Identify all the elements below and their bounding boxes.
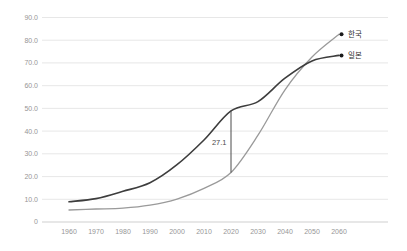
series-label-japan: 일본	[348, 51, 362, 60]
y-tick-label: 90.0	[24, 14, 38, 21]
series-end-dot-japan	[340, 53, 344, 57]
y-tick-label: 80.0	[24, 37, 38, 44]
series-line-japan	[69, 55, 339, 201]
x-tick-label: 1960	[61, 228, 77, 235]
x-tick-label: 1970	[88, 228, 104, 235]
x-tick-label: 2050	[304, 228, 320, 235]
y-tick-label: 60.0	[24, 82, 38, 89]
chart-canvas: 010.020.030.040.050.060.070.080.090.0196…	[0, 0, 407, 251]
y-tick-label: 70.0	[24, 59, 38, 66]
x-tick-label: 1980	[115, 228, 131, 235]
gap-annotation-label: 27.1	[212, 138, 227, 147]
series-label-korea: 한국	[348, 30, 362, 39]
x-tick-label: 2040	[277, 228, 293, 235]
y-tick-label: 10.0	[24, 196, 38, 203]
y-tick-label: 30.0	[24, 150, 38, 157]
x-tick-label: 2030	[250, 228, 266, 235]
x-tick-label: 2060	[331, 228, 347, 235]
x-tick-label: 2000	[169, 228, 185, 235]
y-tick-label: 50.0	[24, 105, 38, 112]
y-tick-label: 20.0	[24, 173, 38, 180]
x-tick-label: 1990	[142, 228, 158, 235]
y-tick-label: 40.0	[24, 128, 38, 135]
y-tick-label: 0	[34, 218, 38, 225]
dependency-ratio-line-chart: 010.020.030.040.050.060.070.080.090.0196…	[0, 0, 407, 251]
series-end-dot-korea	[340, 32, 344, 36]
x-tick-label: 2010	[196, 228, 212, 235]
x-tick-label: 2020	[223, 228, 239, 235]
series-line-korea	[69, 34, 339, 210]
